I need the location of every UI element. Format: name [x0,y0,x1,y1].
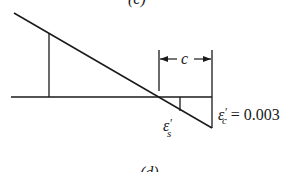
arrowhead-left-icon [160,56,168,62]
bottom-caption: (d) [140,164,159,172]
dimension-label-c: c [181,50,188,67]
top-caption: (c) [128,0,146,8]
concrete-strain-label: ε′c=0.003 [218,105,280,126]
strain-diagram: (c) c ε′s ε′c=0.003 (d) [0,0,300,172]
strain-line [14,13,212,128]
steel-strain-label: ε′s [163,116,172,139]
arrowhead-right-icon [203,56,211,62]
